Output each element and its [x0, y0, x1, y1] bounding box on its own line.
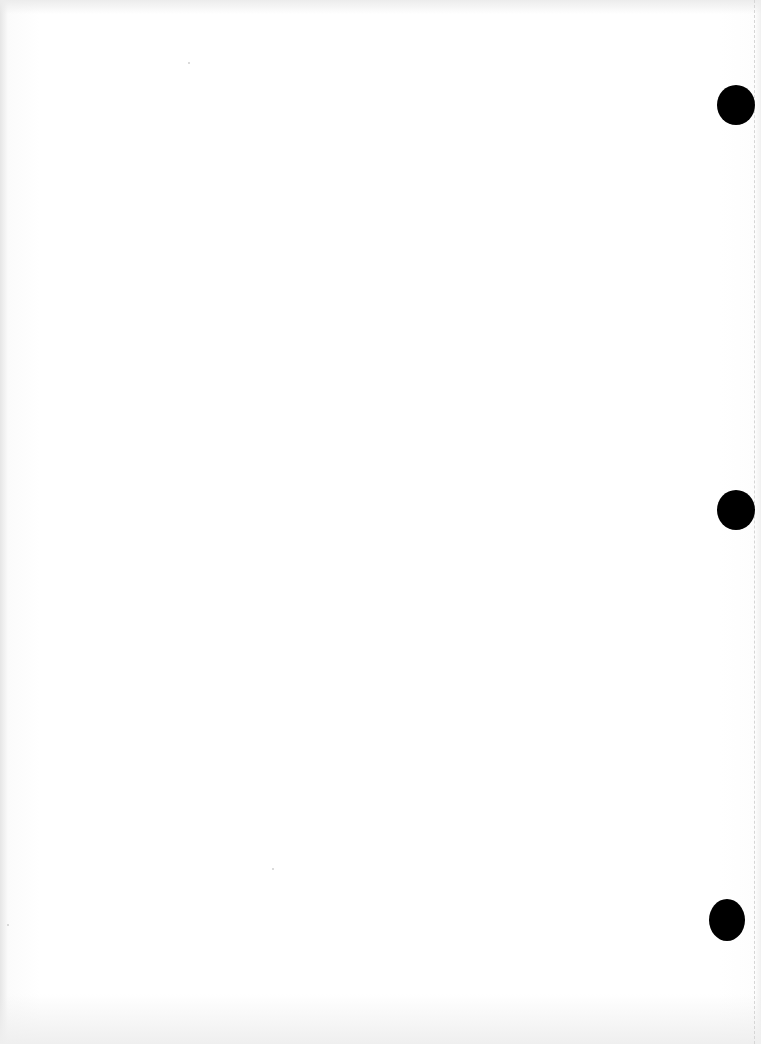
punch-hole-icon [709, 899, 745, 941]
scan-speck [188, 62, 190, 64]
scanned-page [0, 0, 761, 1044]
right-margin-line [754, 0, 755, 1044]
scan-speck [272, 868, 274, 870]
top-edge-shadow [0, 0, 761, 14]
punch-hole-icon [717, 490, 755, 530]
scan-speck [7, 924, 9, 926]
bottom-edge-shadow [0, 994, 761, 1044]
punch-hole-icon [717, 85, 755, 125]
